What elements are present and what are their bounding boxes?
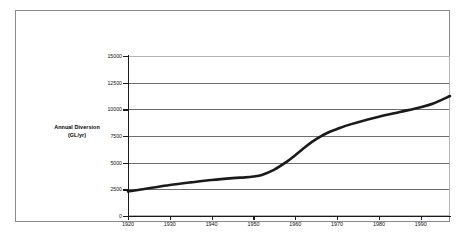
x-tick-label-1930: 1930 <box>155 221 185 227</box>
y-tick-label-7500: 7500 <box>96 133 122 139</box>
x-tick-label-1980: 1980 <box>364 221 394 227</box>
y-tick-mark-15000 <box>123 56 128 57</box>
x-tick-mark-1980 <box>379 216 380 220</box>
y-tick-label-10000: 10000 <box>96 106 122 112</box>
y-tick-label-15000: 15000 <box>96 53 122 59</box>
x-tick-label-1920: 1920 <box>113 221 143 227</box>
y-tick-label-0: 0 <box>96 213 122 219</box>
x-tick-mark-1930 <box>170 216 171 220</box>
x-tick-mark-1970 <box>337 216 338 220</box>
x-tick-mark-1990 <box>421 216 422 220</box>
x-tick-label-1950: 1950 <box>238 221 268 227</box>
series-line-chart <box>128 56 450 216</box>
x-tick-label-1940: 1940 <box>197 221 227 227</box>
x-tick-mark-1940 <box>212 216 213 220</box>
y-axis-caption-line1: Annual Diversion <box>40 123 114 131</box>
figure-frame: Annual Diversion (GL/yr) 025005000750010… <box>15 10 450 222</box>
x-tick-mark-1960 <box>295 216 296 220</box>
y-tick-label-2500: 2500 <box>96 186 122 192</box>
y-tick-mark-12500 <box>123 83 128 84</box>
y-tick-mark-7500 <box>123 136 128 137</box>
y-tick-label-12500: 12500 <box>96 80 122 86</box>
y-tick-mark-2500 <box>123 189 128 190</box>
y-tick-mark-5000 <box>123 163 128 164</box>
x-tick-label-1990: 1990 <box>406 221 436 227</box>
x-axis-spine <box>128 216 451 217</box>
x-tick-mark-1920 <box>128 216 129 220</box>
y-tick-label-5000: 5000 <box>96 160 122 166</box>
x-tick-label-1960: 1960 <box>280 221 310 227</box>
y-axis-spine <box>128 55 129 218</box>
x-tick-mark-1950 <box>253 216 254 220</box>
plot-area <box>128 56 450 216</box>
series-path-annual-diversion <box>128 96 450 191</box>
y-tick-mark-10000 <box>123 109 128 110</box>
chart-screenshot: Annual Diversion (GL/yr) 025005000750010… <box>0 0 461 241</box>
x-tick-label-1970: 1970 <box>322 221 352 227</box>
